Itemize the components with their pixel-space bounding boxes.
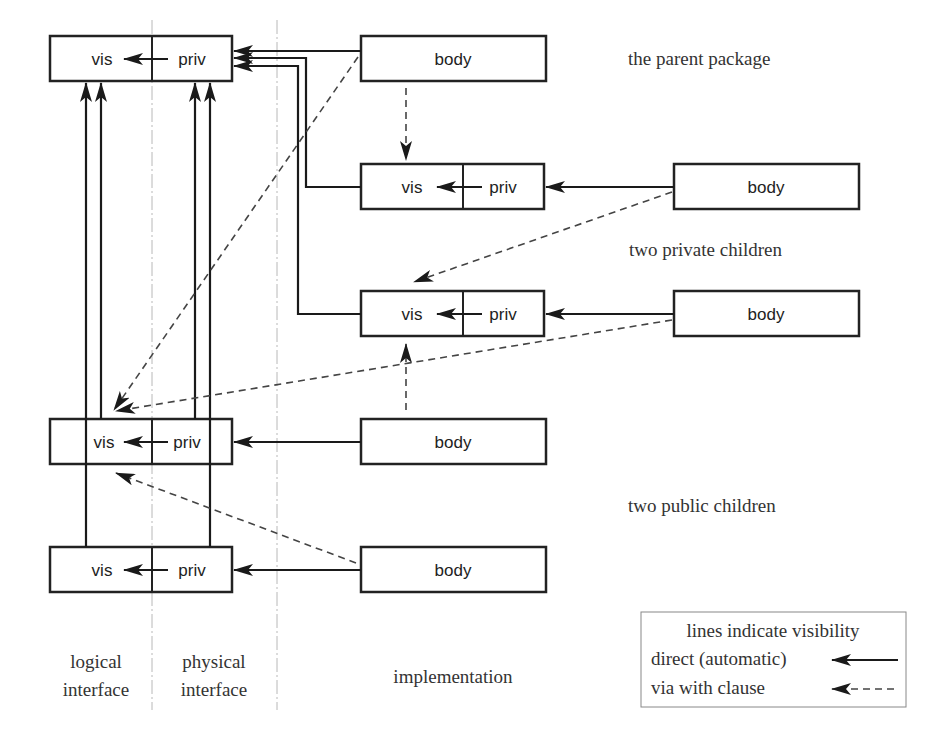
legend: lines indicate visibility direct (automa… — [641, 612, 906, 707]
pc1-vis-label: vis — [402, 178, 423, 197]
legend-with-label: via with clause — [651, 677, 765, 698]
parent-vis-label: vis — [92, 50, 113, 69]
pc2-body-label: body — [748, 305, 785, 324]
zone-physical-line2: interface — [181, 679, 247, 700]
visibility-diagram: vis priv body vis priv body vis priv bod… — [0, 0, 950, 742]
label-public-children: two public children — [628, 495, 776, 516]
zone-logical-line2: interface — [63, 679, 129, 700]
pc2-priv-label: priv — [489, 305, 517, 324]
pub1-priv-label: priv — [173, 433, 201, 452]
public-child-2-body: body — [361, 547, 546, 592]
parent-body-label: body — [435, 50, 472, 69]
zone-implementation: implementation — [393, 666, 513, 687]
pub1-body-label: body — [435, 433, 472, 452]
pc1-priv-label: priv — [489, 178, 517, 197]
public-child-2-spec: vis priv — [50, 547, 232, 592]
pc1-body-label: body — [748, 178, 785, 197]
zone-logical-line1: logical — [70, 651, 122, 672]
pc2-vis-label: vis — [402, 305, 423, 324]
zone-dividers — [152, 20, 277, 710]
private-child-2-body: body — [674, 291, 859, 336]
parent-priv-label: priv — [178, 50, 206, 69]
public-child-1-body: body — [361, 419, 546, 464]
legend-title: lines indicate visibility — [686, 620, 860, 641]
private-child-1-spec: vis priv — [361, 164, 544, 209]
pub1-vis-label: vis — [94, 433, 115, 452]
pub2-priv-label: priv — [178, 561, 206, 580]
parent-spec: vis priv — [50, 36, 232, 81]
pub2-body-label: body — [435, 561, 472, 580]
zone-physical-line1: physical — [182, 651, 245, 672]
private-child-2-spec: vis priv — [361, 291, 544, 336]
pub2-vis-label: vis — [92, 561, 113, 580]
private-child-1-body: body — [674, 164, 859, 209]
label-parent-package: the parent package — [628, 48, 770, 69]
label-private-children: two private children — [629, 239, 783, 260]
parent-body: body — [361, 36, 546, 81]
public-child-1-spec: vis priv — [50, 419, 232, 464]
legend-direct-label: direct (automatic) — [651, 648, 787, 670]
